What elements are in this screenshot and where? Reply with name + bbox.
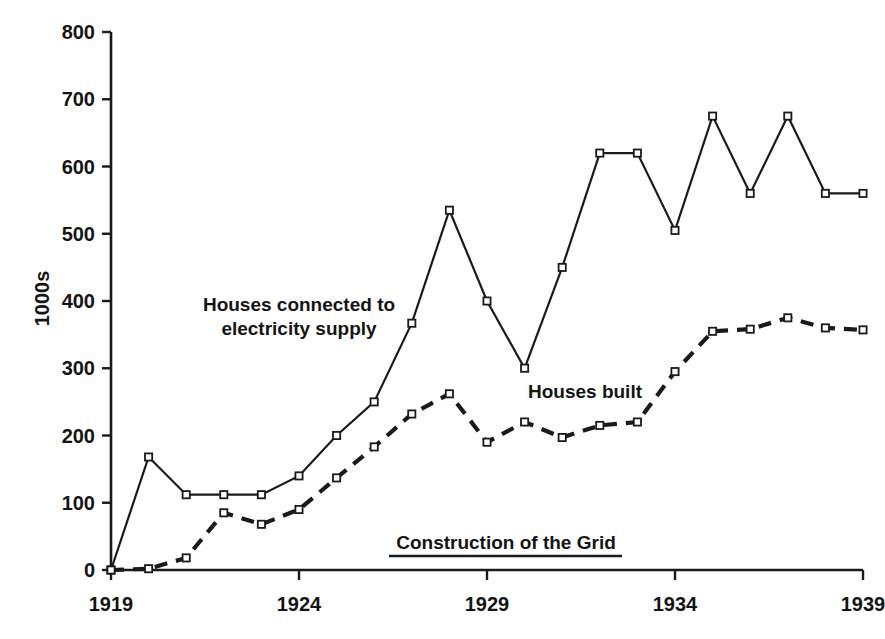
data-series-group: [107, 113, 866, 574]
data-point-marker: [747, 326, 754, 333]
data-point-marker: [822, 190, 829, 197]
series-label-houses-built: Houses built: [528, 380, 642, 404]
data-point-marker: [145, 453, 152, 460]
y-axis-tick-label: 600: [62, 155, 95, 178]
data-point-marker: [634, 418, 641, 425]
data-point-marker: [371, 398, 378, 405]
data-point-marker: [671, 368, 678, 375]
data-point-marker: [822, 324, 829, 331]
y-axis-tick-label: 0: [84, 559, 95, 582]
data-point-marker: [747, 190, 754, 197]
data-point-marker: [333, 432, 340, 439]
data-point-marker: [596, 150, 603, 157]
data-point-marker: [371, 443, 378, 450]
data-point-marker: [258, 521, 265, 528]
data-point-marker: [483, 297, 490, 304]
x-axis-tick-label: 1939: [841, 593, 885, 616]
y-axis-ticks: [102, 32, 111, 570]
period-label-grid: Construction of the Grid: [396, 532, 616, 554]
data-point-marker: [784, 113, 791, 120]
data-point-marker: [671, 227, 678, 234]
x-axis-ticks: [111, 570, 863, 580]
data-point-marker: [634, 150, 641, 157]
y-axis-tick-label: 300: [62, 357, 95, 380]
data-point-marker: [559, 264, 566, 271]
data-point-marker: [145, 565, 152, 572]
x-axis-tick-label: 1929: [465, 593, 510, 616]
y-axis-tick-label: 200: [62, 424, 95, 447]
y-axis-tick-label: 100: [62, 491, 95, 514]
data-point-marker: [333, 474, 340, 481]
data-point-marker: [596, 422, 603, 429]
y-axis-tick-label: 700: [62, 88, 95, 111]
data-point-marker: [220, 509, 227, 516]
data-point-marker: [107, 566, 114, 573]
y-axis-tick-label: 400: [62, 290, 95, 313]
data-point-marker: [784, 314, 791, 321]
x-axis-tick-label: 1934: [653, 593, 698, 616]
y-axis-title: 1000s: [31, 249, 54, 349]
data-point-marker: [295, 472, 302, 479]
data-point-marker: [859, 190, 866, 197]
data-point-marker: [446, 390, 453, 397]
y-axis-tick-label: 500: [62, 222, 95, 245]
data-point-marker: [521, 418, 528, 425]
data-point-marker: [408, 320, 415, 327]
x-axis-tick-label: 1924: [277, 593, 322, 616]
series-line-1: [111, 116, 863, 570]
data-point-marker: [258, 491, 265, 498]
data-point-marker: [859, 326, 866, 333]
x-axis-tick-label: 1919: [89, 593, 134, 616]
data-point-marker: [220, 491, 227, 498]
data-point-marker: [183, 491, 190, 498]
data-point-marker: [446, 207, 453, 214]
data-point-marker: [559, 434, 566, 441]
data-point-marker: [483, 439, 490, 446]
data-point-marker: [295, 506, 302, 513]
y-axis-tick-label: 800: [62, 21, 95, 44]
data-point-marker: [521, 365, 528, 372]
data-point-marker: [183, 554, 190, 561]
data-point-marker: [709, 328, 716, 335]
data-point-marker: [709, 113, 716, 120]
series-label-electricity: Houses connected to electricity supply: [203, 293, 395, 342]
data-point-marker: [408, 410, 415, 417]
